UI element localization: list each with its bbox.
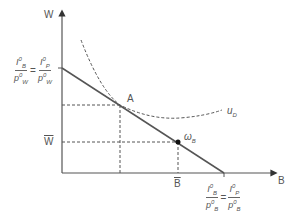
point-a-label: A xyxy=(127,94,134,104)
endowment-point xyxy=(176,140,181,145)
x-intercept-label: I0Bp0B = I0Pp0B xyxy=(206,183,241,212)
budget-line xyxy=(62,68,224,173)
y-intercept-label: I0Bp0W = I0Pp0W xyxy=(14,56,52,85)
endowment-label: ωB xyxy=(184,132,196,144)
indifference-curve xyxy=(81,40,222,118)
indifference-label: uD xyxy=(227,106,237,118)
w-bar-label: W xyxy=(44,137,53,147)
b-bar-label: B xyxy=(174,179,181,189)
y-axis-label: W xyxy=(44,10,53,20)
x-axis-label: B xyxy=(278,176,285,186)
diagram-canvas xyxy=(0,0,287,219)
budget-diagram: W B I0Bp0W = I0Pp0W I0Bp0B = I0Pp0B A ωB… xyxy=(0,0,287,219)
